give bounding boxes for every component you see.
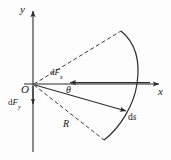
dfx-subscript: x [60,73,63,80]
ds-symbol: s [133,112,137,122]
origin-label: O [21,84,29,95]
figure-container: y x O θ R dFx dFy ds [0,0,171,160]
radius-label: R [63,119,69,129]
ds-label: ds [128,113,136,123]
sector-arc [104,31,138,140]
sector-diagram-svg [0,0,171,160]
y-axis-label: y [20,4,25,15]
x-axis-label: x [158,86,163,97]
angle-theta-label: θ [66,85,71,95]
dfy-subscript: y [18,103,21,110]
upper-radius-dashed [34,31,121,84]
ds-vector [35,85,126,111]
dfy-label: dFy [8,98,21,109]
dfx-label: dFx [50,68,63,79]
